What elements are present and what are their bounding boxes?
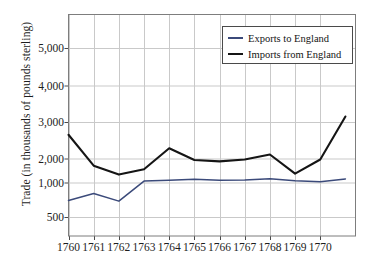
x-tick-label: 1761 bbox=[82, 241, 105, 253]
x-tick-label: 1765 bbox=[183, 241, 206, 253]
x-tick-label: 1760 bbox=[57, 241, 80, 253]
x-tick-label: 1767 bbox=[233, 241, 256, 253]
x-tick-label: 1769 bbox=[284, 241, 307, 253]
axis-ticks bbox=[65, 49, 321, 241]
legend-swatch-exports bbox=[228, 37, 243, 39]
chart-figure: Trade (in thousands of pounds sterling) … bbox=[0, 0, 376, 264]
series-line-exports bbox=[69, 179, 346, 201]
legend-label-imports: Imports from England bbox=[248, 49, 341, 60]
legend-item-imports: Imports from England bbox=[228, 46, 347, 62]
x-tick-label: 1762 bbox=[107, 241, 130, 253]
legend-item-exports: Exports to England bbox=[228, 30, 347, 46]
x-tick-label: 1766 bbox=[208, 241, 231, 253]
x-tick-label: 1763 bbox=[133, 241, 156, 253]
x-tick-label: 1768 bbox=[258, 241, 281, 253]
legend-label-exports: Exports to England bbox=[248, 33, 329, 44]
series-line-imports bbox=[69, 117, 346, 175]
x-tick-label: 1770 bbox=[309, 241, 332, 253]
legend: Exports to England Imports from England bbox=[222, 26, 353, 64]
x-tick-label: 1764 bbox=[158, 241, 181, 253]
legend-swatch-imports bbox=[228, 53, 243, 55]
